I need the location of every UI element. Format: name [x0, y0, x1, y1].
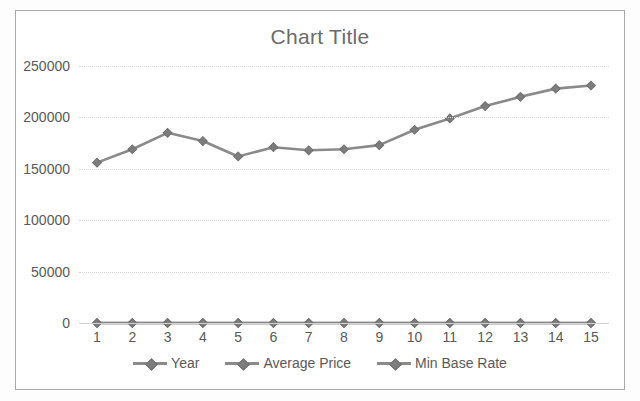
data-point-marker	[551, 84, 560, 93]
gridline	[79, 272, 609, 273]
legend-label: Min Base Rate	[415, 355, 507, 371]
chart-legend: YearAverage PriceMin Base Rate	[16, 355, 624, 371]
data-point-marker	[375, 141, 384, 150]
x-axis-tick-label: 15	[583, 329, 599, 345]
y-axis-tick-label: 100000	[23, 212, 70, 228]
x-axis-tick-label: 8	[340, 329, 348, 345]
gridline	[79, 220, 609, 221]
x-axis-tick-label: 2	[128, 329, 136, 345]
chart-container: Chart Title 0500001000001500002000002500…	[15, 10, 625, 390]
x-axis-tick-label: 10	[407, 329, 423, 345]
legend-marker-icon	[377, 357, 411, 369]
y-axis-tick-label: 200000	[23, 109, 70, 125]
chart-title: Chart Title	[16, 25, 624, 49]
x-axis-tick-label: 11	[443, 329, 458, 345]
x-axis-tick-label: 5	[234, 329, 242, 345]
data-point-marker	[234, 152, 243, 161]
series-average-price	[93, 81, 596, 167]
data-point-marker	[587, 81, 596, 90]
plot-wrapper: 050000100000150000200000250000 123456789…	[79, 66, 609, 323]
x-axis-tick-label: 6	[270, 329, 278, 345]
x-axis-tick-label: 7	[305, 329, 313, 345]
data-point-marker	[198, 137, 207, 146]
series-layer	[79, 66, 609, 323]
gridline	[79, 117, 609, 118]
x-axis-tick-label: 4	[199, 329, 207, 345]
data-point-marker	[269, 143, 278, 152]
data-point-marker	[516, 92, 525, 101]
x-axis-tick-label: 12	[477, 329, 493, 345]
y-axis-tick-label: 250000	[23, 58, 70, 74]
data-point-marker	[445, 114, 454, 123]
data-point-marker	[93, 158, 102, 167]
x-axis-labels: 123456789101112131415	[79, 323, 609, 349]
legend-marker-icon	[133, 357, 167, 369]
plot-area: 050000100000150000200000250000	[79, 66, 609, 323]
legend-item[interactable]: Min Base Rate	[377, 355, 507, 371]
legend-marker-icon	[225, 357, 259, 369]
y-axis-tick-label: 150000	[23, 161, 70, 177]
gridline	[79, 66, 609, 67]
x-axis-tick-label: 13	[513, 329, 529, 345]
x-axis-tick-label: 3	[164, 329, 172, 345]
gridline	[79, 169, 609, 170]
x-axis-tick-label: 14	[548, 329, 564, 345]
data-point-marker	[304, 146, 313, 155]
legend-label: Average Price	[263, 355, 351, 371]
legend-item[interactable]: Average Price	[225, 355, 351, 371]
data-point-marker	[128, 145, 137, 154]
legend-label: Year	[171, 355, 199, 371]
screenshot-canvas: Chart Title 0500001000001500002000002500…	[0, 0, 640, 401]
y-axis-tick-label: 0	[62, 315, 70, 331]
legend-item[interactable]: Year	[133, 355, 199, 371]
data-point-marker	[410, 125, 419, 134]
data-point-marker	[163, 128, 172, 137]
data-point-marker	[481, 102, 490, 111]
y-axis-tick-label: 50000	[31, 264, 70, 280]
x-axis-tick-label: 9	[375, 329, 383, 345]
x-axis-tick-label: 1	[93, 329, 101, 345]
data-point-marker	[340, 145, 349, 154]
